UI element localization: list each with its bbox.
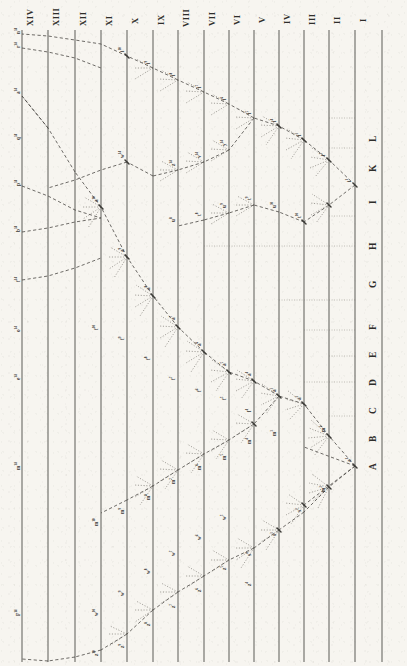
node-label-m4: m4: [246, 438, 252, 444]
stratum-numeral-iv: IV: [283, 13, 292, 24]
node-label-s4: s4: [246, 552, 252, 556]
species-letter-i: I: [369, 200, 379, 204]
node-label-q14: q14: [15, 134, 21, 140]
node-label-t9: t9: [246, 197, 252, 200]
node-label-o14: o14: [15, 326, 21, 332]
node-label-w9: w9: [119, 591, 125, 596]
node-label-a4: a4: [246, 372, 252, 376]
node-label-a7: a7: [170, 316, 176, 320]
node-label-w10: w10: [93, 609, 99, 616]
species-letter-e: E: [369, 352, 379, 358]
node-label-z7: z7: [170, 604, 176, 608]
species-letter-f: F: [369, 324, 379, 330]
node-label-m14: m14: [15, 462, 21, 470]
node-label-i8: i8: [170, 73, 176, 76]
node-label-f5: f5: [221, 397, 227, 400]
node-label-a6: a6: [196, 342, 202, 346]
node-label-f9: f9: [119, 337, 125, 340]
node-label-u10: u10: [271, 202, 277, 208]
node-label-f7: f7: [170, 377, 176, 380]
stratum-numeral-ix: IX: [157, 14, 166, 25]
stratum-numeral-ii: II: [333, 16, 342, 24]
stratum-numeral-x: X: [131, 17, 140, 24]
node-label-n14: n14: [15, 28, 21, 34]
node-label-F14: F14: [15, 609, 21, 616]
node-label-i7: i7: [196, 85, 202, 88]
node-label-a8: a8: [145, 286, 151, 290]
species-letter-l: L: [369, 136, 379, 142]
node-label-m5: m5: [221, 454, 227, 460]
node-label-v14: v14: [196, 152, 202, 158]
stratum-numeral-v: V: [258, 16, 267, 23]
species-letter-b: B: [369, 436, 379, 442]
node-label-f8: f8: [145, 357, 151, 360]
node-label-i6: i6: [221, 97, 227, 100]
node-label-m8: m8: [145, 494, 151, 500]
species-letter-g: G: [369, 281, 379, 288]
stratum-numeral-vii: VII: [208, 11, 217, 26]
node-label-i3: i3: [296, 133, 302, 136]
node-label-a9: a9: [119, 248, 125, 252]
node-label-z9: z9: [119, 644, 125, 648]
node-label-z14: z14: [170, 160, 176, 166]
node-label-m1: m1: [320, 426, 326, 432]
node-label-f10: f10: [93, 325, 99, 330]
node-label-l4: l4: [246, 409, 252, 412]
node-label-w8: w8: [145, 569, 151, 574]
lineage-f-layer: [0, 0, 407, 666]
node-label-y14: y14: [221, 140, 227, 146]
species-letter-d: D: [369, 379, 379, 386]
diagram-plate: XIV XIII XII XI X IX VIII VII VI V IV II…: [0, 0, 407, 666]
node-label-s3: s3: [271, 532, 277, 536]
stratum-numeral-xiv: XIV: [26, 9, 35, 26]
stratum-numeral-xi: XI: [105, 15, 114, 26]
node-label-t8: t8: [196, 213, 202, 216]
node-label-z5: z5: [221, 566, 227, 570]
species-letter-c: C: [369, 407, 379, 414]
species-letter-a: A: [369, 463, 379, 470]
node-label-s2: s2: [296, 508, 302, 512]
node-label-m10: m10: [93, 518, 99, 526]
node-label-m9: m9: [119, 508, 125, 514]
node-label-m2: m2: [320, 486, 326, 492]
node-label-z10: z10: [93, 650, 99, 656]
node-label-e14: e14: [15, 374, 21, 380]
node-label-z6: z6: [196, 588, 202, 592]
node-label-w6: w6: [196, 535, 202, 540]
node-label-b14: b14: [15, 226, 21, 232]
node-label-t10: t10: [296, 213, 302, 218]
node-label-a3: a3: [271, 388, 277, 392]
node-label-m7: m7: [170, 478, 176, 484]
node-label-i9: i9: [145, 61, 151, 64]
stratum-numeral-xiii: XIII: [52, 8, 61, 26]
node-label-m6: m6: [196, 464, 202, 470]
node-label-z4: z4: [246, 582, 252, 586]
plate-sheet: XIV XIII XII XI X IX VIII VII VI V IV II…: [0, 0, 407, 666]
node-label-w5: w5: [221, 515, 227, 520]
stratum-numeral-iii: III: [308, 13, 317, 25]
node-label-u9: u9: [221, 203, 227, 208]
node-label-a10: a10: [93, 196, 99, 202]
node-label-f14: f14: [15, 277, 21, 282]
node-label-a5: a5: [221, 362, 227, 366]
node-label-a1: a1: [346, 458, 352, 462]
node-label-u8: u8: [170, 217, 176, 222]
node-label-z8: z8: [145, 622, 151, 626]
node-label-a2: a2: [296, 396, 302, 400]
stratum-numeral-i: I: [359, 18, 368, 22]
stratum-numeral-xii: XII: [79, 11, 88, 26]
node-label-i1: i1: [346, 179, 352, 182]
node-label-r14: r14: [15, 42, 21, 48]
node-label-m3: m3: [271, 430, 277, 436]
species-letter-k: K: [369, 165, 379, 172]
node-label-f6: f6: [196, 389, 202, 392]
species-letter-h: H: [369, 243, 379, 250]
node-label-i2: i2: [320, 153, 326, 156]
node-label-w14: w14: [119, 151, 125, 158]
node-label-w7: w7: [170, 551, 176, 556]
node-label-i10: i10: [119, 47, 125, 52]
node-label-p14: p14: [15, 180, 21, 186]
node-label-i4: i4: [271, 119, 277, 122]
stratum-numeral-viii: VIII: [182, 9, 191, 27]
node-label-i5: i5: [246, 111, 252, 114]
